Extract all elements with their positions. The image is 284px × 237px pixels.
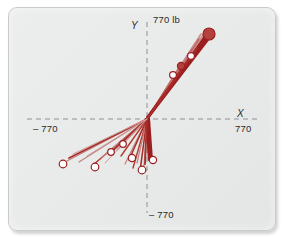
y-max-label: 770 lb xyxy=(153,14,180,25)
marker-open xyxy=(91,163,99,171)
x-min-label: – 770 xyxy=(33,123,58,134)
marker-open xyxy=(108,149,115,156)
vector-plot xyxy=(9,8,275,230)
x-axis-label: X xyxy=(237,108,244,119)
figure-card: Y X 770 lb 770 – 770 – 770 xyxy=(8,7,276,231)
x-max-label: 770 xyxy=(235,123,251,134)
axis-group xyxy=(27,22,257,213)
marker-open xyxy=(59,160,67,168)
marker-open xyxy=(128,154,135,161)
marker-open xyxy=(188,53,195,60)
y-min-label: – 770 xyxy=(149,209,174,220)
marker-open xyxy=(138,166,146,174)
screenshot-root: Y X 770 lb 770 – 770 – 770 xyxy=(0,0,284,237)
marker-open xyxy=(120,141,127,148)
marker-tip-filled xyxy=(203,28,215,40)
quadrant-1-vector-fan xyxy=(146,32,210,121)
y-axis-label: Y xyxy=(131,20,138,31)
marker-open xyxy=(170,72,177,79)
marker-filled xyxy=(177,62,184,69)
quadrant-3-vector-fan xyxy=(65,118,153,171)
marker-open xyxy=(149,156,156,163)
